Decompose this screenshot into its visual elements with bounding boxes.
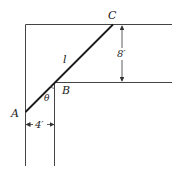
- vertical-dimension-label: 8′: [117, 48, 126, 59]
- ladder-line: [26, 25, 114, 113]
- point-label-c: C: [108, 9, 117, 22]
- horizontal-dimension-label: 4′: [34, 119, 44, 130]
- point-label-b: B: [61, 84, 70, 97]
- point-label-a: A: [10, 107, 19, 120]
- ladder-corridor-diagram: C l B θ A 8′ 4′: [0, 0, 178, 176]
- angle-label-theta: θ: [44, 93, 50, 103]
- ladder-length-label: l: [63, 53, 67, 66]
